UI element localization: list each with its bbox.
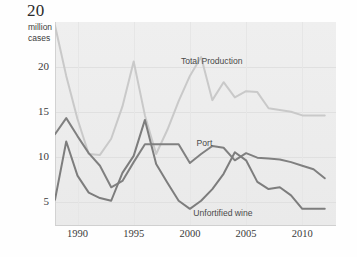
chart-title: 20 bbox=[27, 2, 44, 20]
y-tick-15: 15 bbox=[25, 105, 49, 117]
y-tick-5: 5 bbox=[25, 195, 49, 207]
y-tick-20: 20 bbox=[25, 60, 49, 72]
x-tick-1995: 1995 bbox=[114, 228, 154, 239]
x-tick-2005: 2005 bbox=[226, 228, 266, 239]
series-lines bbox=[55, 22, 336, 225]
x-tick-1990: 1990 bbox=[58, 228, 98, 239]
x-tick-2000: 2000 bbox=[170, 228, 210, 239]
series-label-unfortified-wine: Unfortified wine bbox=[193, 208, 252, 218]
x-axis-line bbox=[55, 225, 336, 226]
series-label-port: Port bbox=[197, 138, 213, 148]
chart-figure: 20 million cases 5101520 199019952000200… bbox=[0, 0, 357, 257]
x-tick-2010: 2010 bbox=[282, 228, 322, 239]
series-label-total-production: Total Production bbox=[181, 56, 243, 66]
y-tick-10: 10 bbox=[25, 150, 49, 162]
series-line-total-production bbox=[55, 26, 325, 155]
series-line-unfortified-wine bbox=[55, 120, 325, 209]
series-line-port bbox=[55, 118, 325, 187]
